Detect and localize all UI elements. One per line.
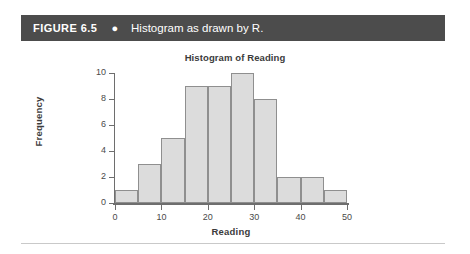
plot-area (115, 73, 347, 203)
histogram-bar (208, 86, 231, 203)
y-axis-title: Frequency (33, 72, 44, 172)
histogram-bar (231, 73, 254, 203)
y-axis-tick-label: 6 (82, 119, 106, 129)
histogram-bar (324, 190, 347, 203)
y-axis-tick-label: 2 (82, 171, 106, 181)
x-axis-tick (254, 205, 255, 210)
x-axis-tick-label: 50 (332, 212, 362, 222)
y-axis-tick (109, 125, 114, 126)
histogram-bar (138, 164, 161, 203)
y-axis-tick (109, 73, 114, 74)
y-axis-tick-label: 10 (82, 67, 106, 77)
histogram-bar (277, 177, 300, 203)
histogram-bar (185, 86, 208, 203)
histogram-bar (115, 190, 138, 203)
x-axis-title: Reading (115, 226, 347, 237)
x-axis-line (113, 203, 349, 205)
figure-caption-banner: FIGURE 6.5 ● Histogram as drawn by R. (21, 15, 445, 41)
x-axis-tick (208, 205, 209, 210)
histogram-bar (301, 177, 324, 203)
histogram-bar (254, 99, 277, 203)
y-axis-tick (109, 177, 114, 178)
y-axis-tick (109, 151, 114, 152)
x-axis-tick (347, 205, 348, 210)
y-axis-tick-label: 4 (82, 145, 106, 155)
chart-title: Histogram of Reading (0, 52, 470, 63)
y-axis-tick (109, 99, 114, 100)
y-axis-tick (109, 203, 114, 204)
y-axis-line (114, 73, 115, 203)
bottom-divider (21, 243, 445, 244)
figure-caption-text: Histogram as drawn by R. (131, 22, 263, 34)
histogram-chart: Histogram of Reading 0246810 01020304050… (0, 44, 470, 234)
bullet-icon: ● (111, 23, 118, 34)
x-axis-tick-label: 10 (146, 212, 176, 222)
histogram-bar (161, 138, 184, 203)
x-axis-tick-label: 0 (100, 212, 130, 222)
x-axis-tick (301, 205, 302, 210)
y-axis-tick-label: 0 (82, 197, 106, 207)
x-axis-tick-label: 40 (286, 212, 316, 222)
x-axis-tick-label: 20 (193, 212, 223, 222)
y-axis-tick-label: 8 (82, 93, 106, 103)
x-axis-tick (161, 205, 162, 210)
figure-number-label: FIGURE 6.5 (33, 22, 97, 34)
x-axis-tick-label: 30 (239, 212, 269, 222)
x-axis-tick (115, 205, 116, 210)
